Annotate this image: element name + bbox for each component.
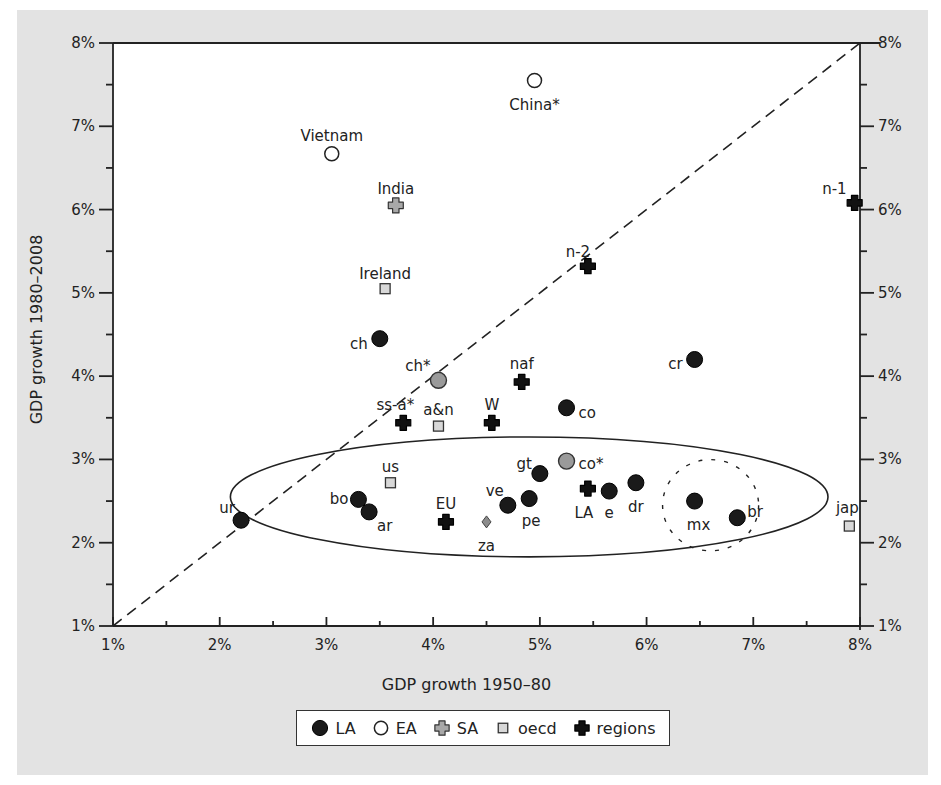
legend-item-regions: regions <box>572 718 656 738</box>
x-tick-label: 3% <box>315 636 339 654</box>
point-label: EU <box>436 495 456 513</box>
square-icon <box>385 478 395 488</box>
point-label: a&n <box>423 401 453 419</box>
gray-circle-icon <box>430 372 446 388</box>
filled-circle-icon <box>361 504 377 520</box>
black-cross-icon <box>572 718 592 738</box>
y-tick-label-right: 8% <box>878 34 902 52</box>
data-point: bo <box>330 490 367 508</box>
point-label: co* <box>579 455 604 473</box>
y-tick-label-left: 3% <box>71 450 95 468</box>
point-label: naf <box>510 355 535 373</box>
y-tick-label-right: 3% <box>878 450 902 468</box>
legend-item-sa: SA <box>432 718 478 738</box>
y-tick-label-left: 1% <box>71 617 95 635</box>
gray-circle-icon <box>559 453 575 469</box>
point-label: cr <box>668 355 683 373</box>
point-label: China* <box>509 96 560 114</box>
point-label: za <box>478 537 495 555</box>
point-label: mx <box>687 516 711 534</box>
legend-label: oecd <box>518 719 557 738</box>
point-label: Ireland <box>359 265 411 283</box>
open-circle-icon <box>528 73 542 87</box>
legend-label: SA <box>457 719 478 738</box>
x-tick-label: 6% <box>635 636 659 654</box>
y-tick-label-left: 7% <box>71 117 95 135</box>
y-tick-label-right: 2% <box>878 534 902 552</box>
point-label: n-2 <box>566 243 590 261</box>
square-icon <box>493 718 513 738</box>
legend-label: EA <box>396 719 417 738</box>
filled-circle-icon <box>310 718 330 738</box>
point-label: ve <box>486 482 504 500</box>
y-tick-label-right: 4% <box>878 367 902 385</box>
point-label: ch <box>350 335 368 353</box>
point-label: Vietnam <box>300 127 363 145</box>
point-label: jap <box>835 499 859 517</box>
x-tick-label: 2% <box>208 636 232 654</box>
point-label: gt <box>516 455 532 473</box>
legend-item-ea: EA <box>371 718 417 738</box>
point-label: ch* <box>405 357 431 375</box>
open-circle-icon <box>325 147 339 161</box>
filled-circle-icon <box>350 491 366 507</box>
point-label: pe <box>522 512 541 530</box>
point-label: ur <box>219 499 236 517</box>
x-tick-label: 8% <box>848 636 872 654</box>
filled-circle-icon <box>687 493 703 509</box>
point-label: bo <box>330 490 349 508</box>
point-label: ss-a* <box>376 396 414 414</box>
legend-item-la: LA <box>310 718 355 738</box>
filled-circle-icon <box>521 491 537 507</box>
y-tick-label-left: 6% <box>71 201 95 219</box>
open-circle-icon <box>371 718 391 738</box>
x-tick-label: 5% <box>528 636 552 654</box>
y-tick-label-right: 6% <box>878 201 902 219</box>
point-label: e <box>605 504 614 522</box>
point-label: ar <box>377 517 393 535</box>
square-icon <box>433 421 443 431</box>
legend-label: LA <box>335 719 355 738</box>
filled-circle-icon <box>233 512 249 528</box>
scatter-chart: 1%2%3%4%5%6%7%8%1%1%2%2%3%3%4%4%5%5%6%6%… <box>0 0 941 785</box>
filled-circle-icon <box>532 466 548 482</box>
filled-circle-icon <box>372 331 388 347</box>
data-point: W <box>484 396 499 431</box>
x-tick-label: 1% <box>101 636 125 654</box>
filled-circle-icon <box>559 400 575 416</box>
point-label: W <box>484 396 499 414</box>
point-label: n-1 <box>822 180 846 198</box>
filled-circle-icon <box>687 351 703 367</box>
point-label: LA <box>574 504 594 522</box>
legend: LA EA SA oecd regions <box>296 710 670 746</box>
x-tick-label: 7% <box>741 636 765 654</box>
gray-cross-icon <box>432 718 452 738</box>
y-tick-label-right: 1% <box>878 617 902 635</box>
data-point: EU <box>436 495 456 530</box>
point-label: br <box>747 503 764 521</box>
y-tick-label-right: 7% <box>878 117 902 135</box>
x-axis-title: GDP growth 1950–80 <box>382 675 551 694</box>
filled-circle-icon <box>628 475 644 491</box>
x-tick-label: 4% <box>421 636 445 654</box>
square-icon <box>844 521 854 531</box>
y-tick-label-left: 5% <box>71 284 95 302</box>
y-axis-title: GDP growth 1980–2008 <box>27 235 46 425</box>
y-tick-label-right: 5% <box>878 284 902 302</box>
legend-item-oecd: oecd <box>493 718 557 738</box>
y-tick-label-left: 2% <box>71 534 95 552</box>
square-icon <box>380 284 390 294</box>
y-tick-label-left: 8% <box>71 34 95 52</box>
legend-label: regions <box>597 719 656 738</box>
point-label: India <box>377 180 414 198</box>
point-label: dr <box>628 498 645 516</box>
point-label: us <box>382 458 400 476</box>
y-tick-label-left: 4% <box>71 367 95 385</box>
point-label: co <box>579 404 596 422</box>
filled-circle-icon <box>729 510 745 526</box>
filled-circle-icon <box>601 483 617 499</box>
